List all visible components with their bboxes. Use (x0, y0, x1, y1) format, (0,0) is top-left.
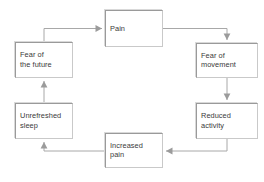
node-unrefreshed-sleep: Unrefreshed sleep (15, 103, 73, 139)
node-reduced-activity-label: Reduced activity (201, 111, 255, 130)
connector-reduced-activity-to-increased-pain (166, 139, 227, 151)
node-increased-pain: Increased pain (105, 133, 163, 168)
arrowhead-increased-pain-to-unrefreshed-sleep (41, 142, 48, 149)
node-pain-label: Pain (110, 24, 160, 34)
node-fear-of-movement-label: Fear of movement (201, 51, 255, 70)
arrowhead-fear-of-movement-to-reduced-activity (224, 94, 231, 101)
node-fear-of-the-future: Fear of the future (15, 42, 73, 78)
node-fear-of-movement: Fear of movement (196, 43, 258, 78)
node-increased-pain-label: Increased pain (110, 141, 160, 160)
node-pain: Pain (105, 10, 163, 47)
arrowhead-pain-to-fear-of-movement (224, 34, 231, 41)
connector-fear-of-the-future-to-pain (44, 29, 102, 43)
pain-cycle-diagram: Pain Fear of movement Reduced activity I… (0, 0, 264, 182)
node-unrefreshed-sleep-label: Unrefreshed sleep (20, 111, 70, 130)
connector-increased-pain-to-unrefreshed-sleep (44, 142, 105, 151)
connector-pain-to-fear-of-movement (163, 29, 227, 41)
arrowhead-reduced-activity-to-increased-pain (166, 148, 173, 155)
node-reduced-activity: Reduced activity (196, 103, 258, 139)
node-fear-of-the-future-label: Fear of the future (20, 50, 70, 69)
arrowhead-fear-of-the-future-to-pain (96, 25, 103, 32)
arrowhead-unrefreshed-sleep-to-fear-of-the-future (41, 81, 48, 88)
